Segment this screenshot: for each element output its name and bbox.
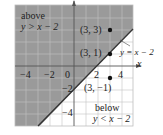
below-inequality: y < x − 2 [93,114,130,124]
point-label-3-3: (3, 3) [80,25,102,35]
x-tick-2: 2 [94,70,99,80]
below-label: below [95,103,119,113]
point-3-3 [108,28,112,32]
y-axis-arrow-icon [72,0,76,6]
point-label-3-1: (3, 1) [80,48,102,58]
x-tick-0: 0 [65,70,70,80]
point-3-neg1 [108,76,112,80]
point-label-3-neg1: (3, −1) [84,83,111,93]
x-tick-neg4: −4 [20,70,31,80]
point-3-1 [108,52,112,56]
x-tick-neg2: −2 [44,70,55,80]
y-tick-neg4: −4 [62,108,73,118]
x-axis-label: x [137,59,141,69]
y-tick-neg2: −2 [62,84,73,94]
above-inequality: y > x − 2 [21,22,58,32]
above-label: above [21,11,45,21]
x-tick-4: 4 [118,70,123,80]
line-label: y = x − 2 [120,47,154,57]
